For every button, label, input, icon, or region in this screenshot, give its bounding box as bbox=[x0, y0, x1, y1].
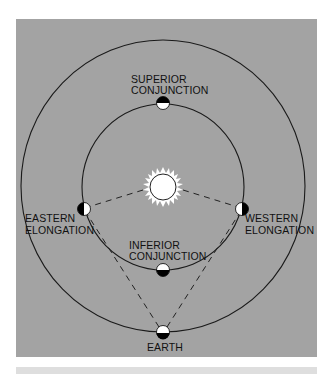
planetary-configurations-diagram: SUPERIOR CONJUNCTION EASTERN ELONGATION … bbox=[0, 0, 332, 374]
label-western-line1: WESTERN bbox=[245, 212, 298, 224]
label-eastern-line2: ELONGATION bbox=[25, 224, 94, 236]
planet-superior-conjunction bbox=[157, 97, 170, 110]
planet-inferior-conjunction bbox=[157, 264, 170, 277]
earth-to-eastern-line bbox=[87, 214, 159, 327]
sun-to-western-line bbox=[183, 190, 238, 207]
label-eastern-line1: EASTERN bbox=[25, 212, 75, 224]
sun-icon bbox=[143, 167, 183, 207]
planet-eastern-elongation bbox=[78, 203, 91, 216]
earth-to-western-line bbox=[167, 214, 239, 327]
label-inferior-line2: CONJUNCTION bbox=[129, 250, 207, 262]
label-western-line2: ELONGATION bbox=[245, 224, 314, 236]
sun-to-eastern-line bbox=[88, 190, 143, 207]
label-superior-line2: CONJUNCTION bbox=[131, 84, 209, 96]
label-earth: EARTH bbox=[147, 341, 183, 353]
earth-icon bbox=[157, 326, 170, 340]
